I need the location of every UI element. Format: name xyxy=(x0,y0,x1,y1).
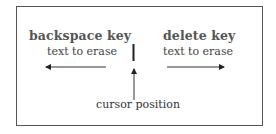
arrows-layer xyxy=(0,0,276,134)
